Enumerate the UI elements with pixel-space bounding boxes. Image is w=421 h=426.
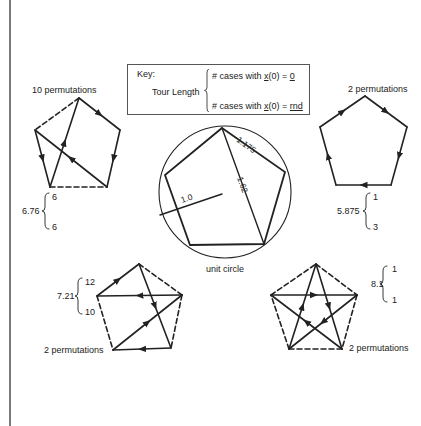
- key-brace-icon: [204, 69, 210, 112]
- bottom-left-pentagon: [97, 264, 182, 350]
- bottom-left-tour-length: 7.21: [57, 292, 75, 301]
- top-right-cases-rnd: 3: [373, 223, 378, 232]
- legend-key: Key: Tour Length # cases with x(0) = 0 #…: [127, 64, 310, 115]
- unit-circle-figure: [159, 126, 291, 258]
- brace-top-right: [363, 193, 370, 229]
- bottom-right-permutations-label: 2 permutations: [349, 344, 409, 353]
- top-right-permutations-label: 2 permutations: [348, 85, 408, 94]
- bottom-right-tour-length: 8.1: [371, 280, 384, 289]
- top-right-cases-zero: 1: [373, 193, 378, 202]
- brace-top-left: [42, 193, 49, 229]
- bottom-left-permutations-label: 2 permutations: [44, 346, 104, 355]
- bottom-left-cases-zero: 12: [85, 278, 95, 287]
- key-title: Key:: [137, 69, 155, 79]
- top-left-pentagon: [35, 98, 120, 187]
- top-left-permutations-label: 10 permutations: [32, 86, 97, 95]
- top-right-tour-length: 5.875: [337, 207, 360, 216]
- key-row-zero: # cases with x(0) = 0: [212, 71, 295, 81]
- key-row-rnd: # cases with x(0) = rnd: [212, 101, 303, 111]
- bottom-right-cases-zero: 1: [392, 265, 397, 274]
- top-left-cases-zero: 6: [52, 193, 57, 202]
- brace-bottom-left: [75, 278, 82, 314]
- radius-label: 1.0: [179, 192, 194, 205]
- diagonal-length-label: 1.62: [235, 175, 250, 194]
- side-length-label: 1.175: [235, 135, 258, 156]
- top-left-cases-rnd: 6: [52, 223, 57, 232]
- key-tour-length-label: Tour Length: [152, 87, 200, 97]
- bottom-right-cases-rnd: 1: [392, 296, 397, 305]
- top-left-tour-length: 6.76: [22, 207, 40, 216]
- unit-circle-caption: unit circle: [206, 265, 244, 274]
- top-right-pentagon: [320, 96, 407, 185]
- bottom-left-cases-rnd: 10: [85, 308, 95, 317]
- bottom-right-star: [271, 264, 357, 349]
